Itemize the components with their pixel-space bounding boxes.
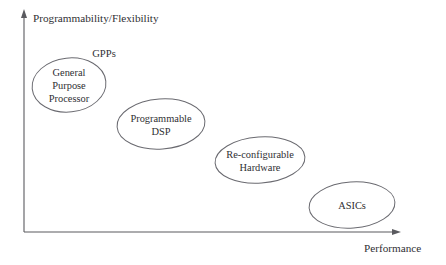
general-purpose-processor-label-line-1: General [53, 67, 86, 78]
re-configurable-hardware-label-line-1: Re-configurable [226, 149, 294, 160]
x-axis-label: Performance [364, 242, 421, 254]
programmable-dsp-ellipse [115, 96, 206, 152]
right-arrow-icon [392, 229, 401, 235]
general-purpose-processor-label-line-2: Purpose [52, 80, 86, 91]
node-general-purpose-processor[interactable]: General Purpose Processor [29, 54, 108, 115]
re-configurable-hardware-label-line-2: Hardware [240, 162, 281, 173]
programmability-vs-performance-diagram: Programmability/Flexibility Performance … [0, 0, 446, 265]
programmable-dsp-label-line-2: DSP [151, 126, 170, 137]
node-asics[interactable]: ASICs [308, 179, 397, 231]
programmable-dsp-label-line-1: Programmable [130, 113, 192, 124]
node-programmable-dsp[interactable]: Programmable DSP [115, 96, 206, 152]
x-axis [24, 229, 401, 235]
re-configurable-hardware-ellipse [214, 134, 307, 186]
y-axis [21, 9, 27, 232]
y-axis-label: Programmability/Flexibility [33, 12, 159, 24]
up-arrow-icon [21, 9, 27, 18]
general-purpose-processor-label-line-3: Processor [49, 93, 90, 104]
diagram-canvas: Programmability/Flexibility Performance … [0, 0, 446, 265]
gpps-label: GPPs [92, 48, 116, 59]
node-re-configurable-hardware[interactable]: Re-configurable Hardware [214, 134, 307, 186]
asics-label: ASICs [338, 200, 366, 211]
